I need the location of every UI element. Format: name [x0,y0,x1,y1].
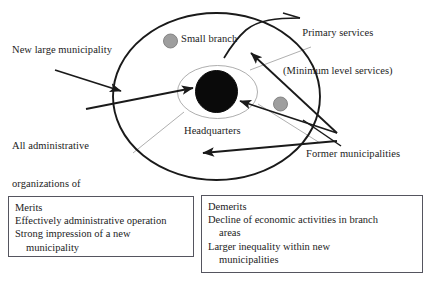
arrow-new-large-municipality [55,70,121,91]
demerits-box: Demerits Decline of economic activities … [201,195,423,273]
label-primary-services-line1: Primary services [283,27,393,40]
divider-line-lower-left [133,112,184,153]
demerits-item-continuation: areas [208,226,417,239]
diagram-canvas: Primary services (Minimum level services… [0,0,431,286]
label-all-admin-line2: organizations of [12,178,89,191]
label-all-admin-line1: All administrative [12,140,89,153]
demerits-item: Larger inequality within new [208,240,417,253]
arrow-former-municipality-center [240,101,337,133]
demerits-item: Decline of economic activities in branch [208,213,417,226]
merits-box: Merits Effectively administrative operat… [8,196,194,257]
arrow-all-administrative-organizations [86,88,193,109]
label-headquarters: Headquarters [184,125,241,138]
merits-item-continuation: municipality [15,241,188,254]
label-small-branch: Small branch [181,33,237,46]
label-former-municipalities: Former municipalities [306,148,400,161]
label-primary-services: Primary services (Minimum level services… [283,2,393,102]
merits-heading: Merits [15,201,188,214]
headquarters-core [196,71,238,113]
label-primary-services-line2: (Minimum level services) [283,65,393,78]
label-new-large-municipality: New large municipality [12,44,112,57]
small-branch-marker-upper-left [164,34,178,48]
merits-item: Strong impression of a new [15,227,188,240]
demerits-heading: Demerits [208,200,417,213]
demerits-item-continuation: municipalities [208,253,417,266]
merits-item: Effectively administrative operation [15,214,188,227]
